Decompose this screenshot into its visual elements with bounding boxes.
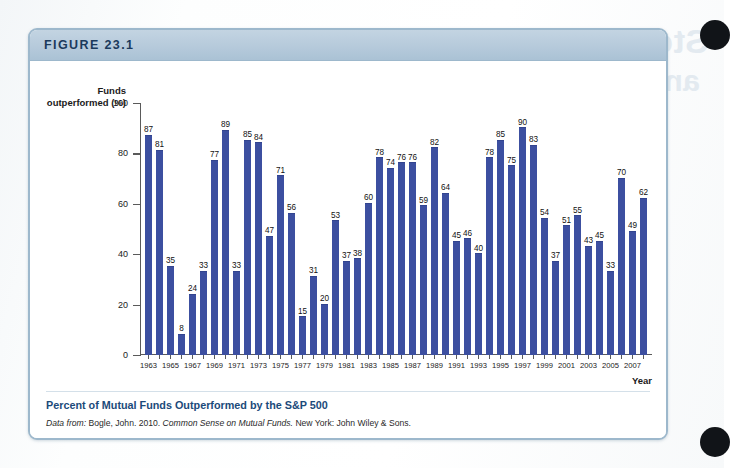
x-axis-tick [473,355,484,360]
x-axis-tick [143,355,154,360]
x-axis-tick [407,355,418,360]
bar-column: 82 [429,103,440,355]
x-axis-label-cell: 1991 [451,361,462,375]
x-axis-tick-mark [445,355,446,359]
bar-value-label: 62 [639,188,648,197]
bar [266,236,273,355]
x-axis-tick-mark [214,355,215,359]
x-axis-tick-labels: 1963196519671969197119731975197719791981… [143,361,649,375]
x-axis-tick-mark [390,355,391,359]
x-axis-tick [209,355,220,360]
bar [288,213,295,355]
bar-value-label: 82 [430,138,439,147]
x-axis-tick [583,355,594,360]
y-axis-tick [133,103,141,104]
x-axis-tick [440,355,451,360]
bar-value-label: 90 [518,118,527,127]
y-axis-tick-label: 20 [90,300,128,310]
x-axis-tick-mark [566,355,567,359]
x-axis-tick [165,355,176,360]
x-axis-label-cell: 1965 [165,361,176,375]
x-axis-tick [506,355,517,360]
x-axis-tick-mark [555,355,556,359]
x-axis-tick [275,355,286,360]
bar-value-label: 45 [452,231,461,240]
x-axis-label-cell: 1975 [275,361,286,375]
bar-column: 85 [242,103,253,355]
x-axis-tick-mark [368,355,369,359]
bar-value-label: 55 [573,206,582,215]
bar-column: 37 [341,103,352,355]
bar-column: 56 [286,103,297,355]
bar-column: 33 [231,103,242,355]
bar-series: 8781358243377893385844771561531205337386… [143,103,649,355]
x-axis-label-cell: 1979 [319,361,330,375]
x-axis-tick [561,355,572,360]
binding-hole-top-icon [700,20,730,50]
bar-column: 77 [209,103,220,355]
bar-value-label: 78 [485,148,494,157]
bar-value-label: 60 [364,193,373,202]
source-author: Bogle, John. 2010. [89,418,161,428]
x-axis-tick [253,355,264,360]
x-axis-label-cell: 1967 [187,361,198,375]
bar-column: 76 [407,103,418,355]
bar-value-label: 77 [210,150,219,159]
x-axis-tick-mark [258,355,259,359]
bar-value-label: 49 [628,221,637,230]
x-axis-tick-mark [522,355,523,359]
x-axis-label-cell: 1987 [407,361,418,375]
x-axis-tick [396,355,407,360]
bar-value-label: 15 [298,307,307,316]
x-axis-tick-mark [192,355,193,359]
x-axis-label-cell: 1969 [209,361,220,375]
bar-column: 20 [319,103,330,355]
x-axis-tick-mark [478,355,479,359]
bar [442,193,449,355]
x-axis-ticks [143,355,649,360]
bar-value-label: 75 [507,156,516,165]
bar [332,220,339,355]
x-axis-tick-mark [511,355,512,359]
bar-value-label: 38 [353,249,362,258]
bar-value-label: 33 [199,261,208,270]
x-axis-label-cell: 1999 [539,361,550,375]
bar-column: 78 [484,103,495,355]
x-axis-label-cell: 1983 [363,361,374,375]
bar-value-label: 89 [221,120,230,129]
bar-column: 15 [297,103,308,355]
x-axis-label-cell: 1993 [473,361,484,375]
x-axis-label-cell: 2001 [561,361,572,375]
x-axis-tick [242,355,253,360]
bar [552,261,559,355]
x-axis-tick-mark [269,355,270,359]
x-axis-tick-mark [247,355,248,359]
x-axis-tick-mark [379,355,380,359]
x-axis-label-cell: 2005 [605,361,616,375]
x-axis-tick-mark [610,355,611,359]
bar-value-label: 33 [606,261,615,270]
figure-header: FIGURE 23.1 [30,30,666,61]
x-axis-tick [451,355,462,360]
bar-value-label: 83 [529,135,538,144]
x-axis-tick [418,355,429,360]
bar-value-label: 87 [144,125,153,134]
x-axis-label-cell: 1971 [231,361,242,375]
bar-column: 89 [220,103,231,355]
bar-column: 51 [561,103,572,355]
bar [354,258,361,355]
bar-column: 78 [374,103,385,355]
bar-value-label: 54 [540,208,549,217]
bar [387,168,394,355]
x-axis-tick [231,355,242,360]
bar [244,140,251,355]
bar [530,145,537,355]
bar-value-label: 8 [179,324,184,333]
bar-column: 85 [495,103,506,355]
bar-column: 33 [198,103,209,355]
bar-value-label: 35 [166,256,175,265]
x-axis-tick-mark [203,355,204,359]
x-axis-tick [352,355,363,360]
y-axis-tick-label: 80 [90,148,128,158]
bar-value-label: 56 [287,203,296,212]
